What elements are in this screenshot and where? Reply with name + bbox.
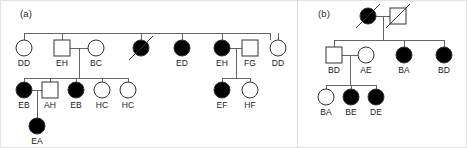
individual-a1-fg-label: FG — [244, 58, 256, 68]
individual-b3-be-group[interactable] — [343, 89, 359, 105]
individual-b3-de-label: DE — [370, 107, 382, 117]
individual-b3-de-affected-female[interactable] — [368, 89, 384, 105]
individual-a1-eh-group[interactable] — [54, 40, 70, 56]
individual-a1-fg-group[interactable] — [242, 40, 258, 56]
individual-b2-ae-group[interactable] — [358, 47, 374, 63]
individual-b2-bd2-group[interactable] — [436, 47, 452, 63]
individual-a1-bc-group[interactable] — [88, 40, 104, 56]
individual-a1-eh-unaffected-male[interactable] — [54, 40, 70, 56]
individual-a2-ah-label: AH — [44, 100, 56, 110]
individual-a2-hc-group[interactable] — [94, 82, 110, 98]
individual-a1-eh2-label: EH — [216, 58, 228, 68]
individual-a1-ed-affected-female[interactable] — [174, 40, 190, 56]
individual-a3-ea-label: EA — [31, 136, 42, 146]
individual-b3-ba-label: BA — [320, 107, 331, 117]
individual-a2-eb2-label: EB — [70, 100, 81, 110]
individual-a1-dd-label: DD — [18, 58, 30, 68]
individual-b3-be-label: BE — [345, 107, 356, 117]
individual-a1-eh2-affected-female[interactable] — [214, 40, 230, 56]
individual-a1-dd-group[interactable] — [16, 40, 32, 56]
individual-a2-ah-group[interactable] — [42, 82, 58, 98]
individual-a2-eb-label: EB — [18, 100, 29, 110]
individual-a1-eh-label: EH — [56, 58, 68, 68]
individual-a1-ed-group[interactable] — [174, 40, 190, 56]
individual-b3-ba-unaffected-female[interactable] — [318, 89, 334, 105]
individual-b3-de-group[interactable] — [368, 89, 384, 105]
individual-a2-eb2-affected-female[interactable] — [68, 82, 84, 98]
individual-a2-hf-label: HF — [244, 100, 255, 110]
individual-a2-hc2-unaffected-female[interactable] — [120, 82, 136, 98]
individual-b1-m-group[interactable] — [386, 4, 410, 28]
individual-a1-unk-group[interactable] — [129, 36, 153, 60]
individual-a1-bc-unaffected-female[interactable] — [88, 40, 104, 56]
individual-b2-bd-unaffected-male[interactable] — [326, 47, 342, 63]
individual-a1-bc-label: BC — [90, 58, 102, 68]
individual-a2-hc2-group[interactable] — [120, 82, 136, 98]
pedigree-figure: DDEHBCEDEHFGDDEBAHEBHCHCEFHFEABDAEBABDBA… — [0, 0, 467, 148]
individual-a3-ea-affected-female[interactable] — [29, 118, 45, 134]
individual-a1-dd2-unaffected-female[interactable] — [270, 40, 286, 56]
individual-b2-ba-affected-female[interactable] — [396, 47, 412, 63]
individual-b2-ae-unaffected-female[interactable] — [358, 47, 374, 63]
individual-a1-dd2-group[interactable] — [270, 40, 286, 56]
individual-a2-ef-group[interactable] — [214, 82, 230, 98]
individual-a2-ah-unaffected-male[interactable] — [42, 82, 58, 98]
individual-a2-hc-unaffected-female[interactable] — [94, 82, 110, 98]
panel-caption-b: (b) — [318, 8, 330, 19]
individual-a3-ea-group[interactable] — [29, 118, 45, 134]
individual-b2-bd2-affected-female[interactable] — [436, 47, 452, 63]
individual-a1-eh2-group[interactable] — [214, 40, 230, 56]
individual-b2-bd-label: BD — [328, 65, 340, 75]
individual-a2-eb-affected-female[interactable] — [16, 82, 32, 98]
individual-a2-ef-label: EF — [217, 100, 228, 110]
individual-b3-ba-group[interactable] — [318, 89, 334, 105]
individual-a1-ed-label: ED — [176, 58, 188, 68]
individual-a1-fg-unaffected-male[interactable] — [242, 40, 258, 56]
individual-b2-ae-label: AE — [360, 65, 371, 75]
individual-b1-f-group[interactable] — [356, 4, 380, 28]
individual-a1-dd2-label: DD — [272, 58, 284, 68]
individual-a2-hc2-label: HC — [122, 100, 134, 110]
individual-b2-bd-group[interactable] — [326, 47, 342, 63]
panel-divider — [297, 0, 298, 148]
individual-a2-ef-affected-female[interactable] — [214, 82, 230, 98]
individual-b3-be-affected-female[interactable] — [343, 89, 359, 105]
individual-a2-hc-label: HC — [96, 100, 108, 110]
individual-a1-dd-unaffected-female[interactable] — [16, 40, 32, 56]
individual-b2-ba-group[interactable] — [396, 47, 412, 63]
panel-caption-a: (a) — [20, 8, 32, 19]
individual-a2-hf-group[interactable] — [242, 82, 258, 98]
pedigree-canvas — [0, 0, 467, 148]
individual-a2-eb2-group[interactable] — [68, 82, 84, 98]
individual-a2-hf-unaffected-female[interactable] — [242, 82, 258, 98]
individual-a2-eb-group[interactable] — [16, 82, 32, 98]
individual-b2-bd2-label: BD — [438, 65, 450, 75]
individual-b2-ba-label: BA — [398, 65, 409, 75]
